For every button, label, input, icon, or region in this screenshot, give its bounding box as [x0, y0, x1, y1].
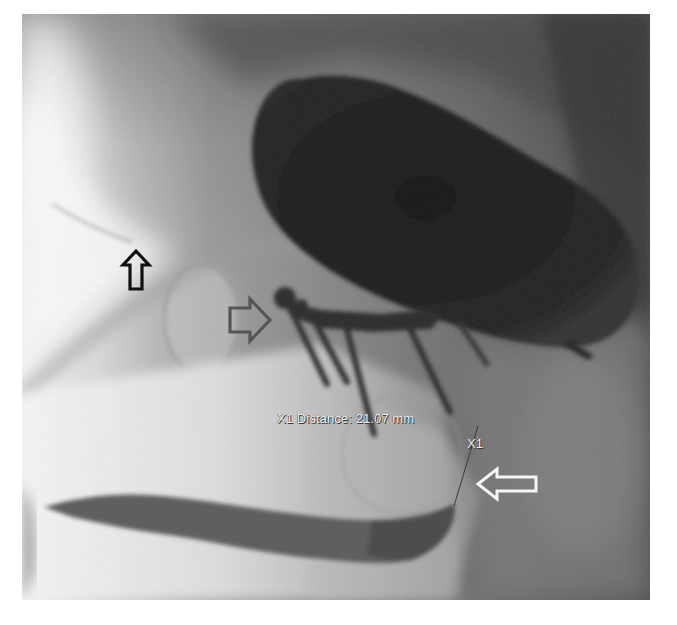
xray-image [22, 14, 650, 600]
marker-label: X1 [467, 436, 483, 451]
image-viewer: X1 Distance: 21.07 mm X1 [0, 0, 677, 625]
xray-render [22, 14, 650, 600]
measurement-label: X1 Distance: 21.07 mm [277, 411, 414, 426]
